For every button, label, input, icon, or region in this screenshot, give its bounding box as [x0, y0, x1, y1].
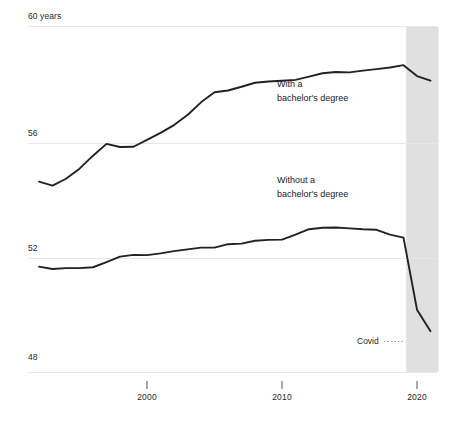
y-axis-label-56: 56 — [28, 128, 38, 138]
annotation-without-line1: Without a — [277, 174, 348, 188]
y-axis-label-48: 48 — [28, 352, 38, 362]
annotation-without-line2: bachelor's degree — [277, 188, 348, 202]
y-axis-label-52: 52 — [28, 243, 38, 253]
chart-plot-area — [0, 0, 460, 430]
series-line-with-bachelors-degree — [39, 65, 431, 186]
x-axis-label-2020: 2020 — [387, 392, 447, 402]
x-axis-ticks — [147, 381, 417, 389]
series-line-without-bachelors-degree — [39, 227, 431, 331]
median-age-line-chart: 60 years 56 52 48 2000 2010 2020 With a … — [0, 0, 460, 430]
annotation-with-line2: bachelor's degree — [277, 92, 348, 106]
x-axis-label-2000: 2000 — [117, 392, 177, 402]
annotation-with-line1: With a — [277, 78, 348, 92]
y-axis-label-60: 60 years — [28, 11, 61, 21]
x-axis-label-2010: 2010 — [252, 392, 312, 402]
annotation-covid: Covid — [357, 336, 379, 346]
gridlines — [28, 27, 437, 373]
annotation-with-bachelors-degree: With a bachelor's degree — [277, 78, 348, 105]
annotation-without-bachelors-degree: Without a bachelor's degree — [277, 174, 348, 201]
